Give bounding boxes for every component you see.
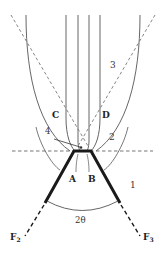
label-focus-2: F2 xyxy=(10,232,21,243)
label-point-d: D xyxy=(102,110,110,120)
left-focus-extension xyxy=(25,205,44,236)
label-angle: 2θ xyxy=(75,215,86,225)
inner-line-4 xyxy=(91,15,100,151)
optics-diagram: 3 C D 4 2 A B 1 2θ F2 F3 xyxy=(0,0,163,254)
inner-line-1 xyxy=(66,15,75,151)
label-region-1: 1 xyxy=(130,180,136,190)
pointer-b xyxy=(87,154,89,172)
label-focus-3: F3 xyxy=(143,232,154,243)
right-lower-curve xyxy=(104,127,128,170)
label-point-a: A xyxy=(68,174,77,184)
trapezoid-profile xyxy=(45,151,120,203)
label-point-c: C xyxy=(52,110,59,120)
angle-arc xyxy=(47,201,118,211)
right-focus-extension xyxy=(121,205,140,236)
label-region-4: 4 xyxy=(45,126,50,136)
right-dashed-diagonal xyxy=(78,15,155,146)
label-region-3: 3 xyxy=(110,60,116,70)
label-point-b: B xyxy=(88,174,96,184)
right-outer-curve xyxy=(96,15,140,151)
pointer-a xyxy=(76,154,78,172)
label-region-2: 2 xyxy=(109,132,115,142)
pointer-4 xyxy=(54,139,80,147)
pointer-4-dot xyxy=(80,146,83,149)
